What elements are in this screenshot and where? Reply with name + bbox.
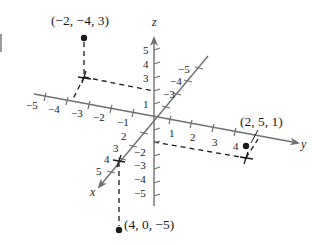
svg-text:3: 3 [212, 136, 218, 148]
svg-text:−4: −4 [134, 173, 146, 185]
svg-text:−4: −4 [170, 75, 182, 87]
svg-text:3: 3 [113, 142, 119, 154]
point-c: (4, 0, −5) [116, 217, 175, 233]
svg-text:2: 2 [190, 131, 196, 143]
svg-text:−3: −3 [163, 88, 175, 100]
svg-text:4: 4 [104, 153, 110, 165]
svg-text:−5: −5 [178, 63, 190, 75]
coordinate-diagram: z y x 1 3 4 5 −2 −3 −4 −5 1 2 3 4 −1 −2 … [0, 0, 312, 245]
svg-text:−2: −2 [134, 146, 146, 158]
svg-text:−5: −5 [26, 99, 38, 111]
diagram-canvas: z y x 1 3 4 5 −2 −3 −4 −5 1 2 3 4 −1 −2 … [0, 0, 312, 245]
x-axis-label: x [89, 185, 96, 199]
svg-text:−2: −2 [93, 111, 105, 123]
z-tick-labels: 1 3 4 5 −2 −3 −4 −5 [134, 44, 149, 199]
svg-text:−4: −4 [48, 103, 60, 115]
svg-text:−1: −1 [117, 116, 129, 128]
point-label: (2, 5, 1) [240, 114, 283, 129]
point-a: (−2, −4, 3) [51, 13, 109, 41]
edge-mark [0, 34, 2, 52]
svg-text:2: 2 [121, 130, 127, 142]
point-dot [243, 143, 249, 149]
point-dot [116, 227, 122, 233]
projection-lines [73, 42, 258, 226]
point-label: (−2, −4, 3) [51, 13, 109, 28]
svg-text:5: 5 [96, 165, 102, 177]
svg-text:−3: −3 [134, 159, 146, 171]
svg-text:4: 4 [233, 140, 239, 152]
point-label: (4, 0, −5) [124, 217, 174, 232]
z-axis-label: z [151, 15, 157, 29]
svg-text:1: 1 [143, 98, 149, 110]
y-axis-label: y [300, 137, 307, 151]
point-b: (2, 5, 1) [240, 114, 283, 149]
svg-text:−5: −5 [134, 187, 146, 199]
point-dot [81, 35, 87, 41]
svg-text:−3: −3 [71, 107, 83, 119]
svg-text:5: 5 [143, 44, 149, 56]
svg-text:1: 1 [169, 127, 175, 139]
svg-text:3: 3 [143, 72, 149, 84]
svg-text:4: 4 [143, 58, 149, 70]
